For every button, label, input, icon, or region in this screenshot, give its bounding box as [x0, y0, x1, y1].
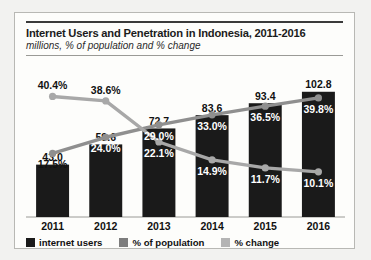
bar-value-label: 102.8: [305, 78, 331, 90]
x-tick-2014: 2014: [186, 219, 239, 235]
pct-change-label: 11.7%: [251, 173, 281, 185]
x-axis-tick-labels: 201120122013201420152016: [26, 219, 345, 235]
legend-item: internet users: [26, 237, 102, 248]
chart-legend: internet users% of population% change: [26, 235, 345, 249]
pct-change-label: 14.9%: [197, 165, 227, 177]
chart-header: Internet Users and Penetration in Indone…: [26, 21, 343, 56]
legend-swatch-icon: [119, 238, 128, 247]
pct-population-label: 29.0%: [144, 130, 174, 142]
pct-population-label: 17.5%: [38, 158, 68, 170]
pct-change-label: 38.6%: [91, 84, 121, 96]
x-tick-2016: 2016: [292, 219, 345, 235]
x-tick-2013: 2013: [132, 219, 185, 235]
legend-swatch-icon: [26, 238, 35, 247]
pct-population-label: 33.0%: [197, 120, 227, 132]
x-tick-2012: 2012: [79, 219, 132, 235]
pct-population-label: 39.8%: [304, 103, 334, 115]
pct-change-label: 10.1%: [304, 177, 334, 189]
pct-population-label: 36.5%: [250, 111, 280, 123]
legend-label: % change: [234, 237, 279, 248]
x-tick-2011: 2011: [26, 219, 79, 235]
chart-title: Internet Users and Penetration in Indone…: [26, 27, 343, 39]
bar-value-label: 93.4: [255, 90, 276, 102]
combo-chart-svg: 43.059.672.783.693.4102.817.5%24.0%29.0%…: [26, 69, 345, 219]
pct-change-label: 22.1%: [144, 147, 174, 159]
legend-label: internet users: [39, 237, 102, 248]
chart-card: Internet Users and Penetration in Indone…: [14, 12, 355, 249]
chart-screenshot: Internet Users and Penetration in Indone…: [0, 0, 371, 260]
legend-item: % of population: [119, 237, 204, 248]
legend-swatch-icon: [221, 238, 230, 247]
legend-item: % change: [221, 237, 279, 248]
header-rule-top: [26, 21, 343, 23]
x-tick-2015: 2015: [239, 219, 292, 235]
header-rule-bottom: [26, 55, 343, 56]
pct-change-label: 40.4%: [38, 79, 68, 91]
pct-population-label: 24.0%: [91, 142, 121, 154]
legend-label: % of population: [132, 237, 204, 248]
chart-subtitle: millions, % of population and % change: [26, 40, 343, 52]
plot-area: 43.059.672.783.693.4102.817.5%24.0%29.0%…: [26, 69, 345, 219]
